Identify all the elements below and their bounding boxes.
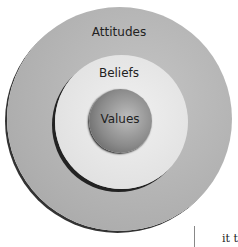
values-label: Values (1, 112, 238, 126)
attitudes-label: Attitudes (0, 25, 238, 39)
column-divider (194, 226, 195, 247)
body-text-fragment: it t (222, 232, 238, 245)
beliefs-label: Beliefs (0, 66, 238, 80)
